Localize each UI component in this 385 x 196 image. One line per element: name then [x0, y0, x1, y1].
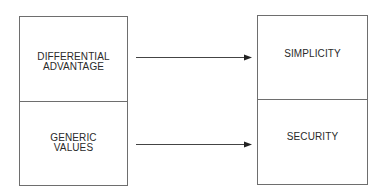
left-column-divider	[20, 101, 127, 102]
right-arrow-icon	[136, 141, 252, 148]
simplicity-label: SIMPLICITY	[258, 49, 367, 59]
generic-values-label: GENERIC VALUES	[20, 133, 127, 153]
arrow-differential-to-simplicity	[136, 54, 252, 61]
right-column-divider	[258, 99, 367, 100]
right-arrow-icon	[136, 54, 252, 61]
differential-advantage-label: DIFFERENTIAL ADVANTAGE	[20, 52, 127, 72]
simplicity-line-1: SIMPLICITY	[258, 49, 367, 59]
right-column-box: SIMPLICITY SECURITY	[257, 15, 368, 185]
security-line-1: SECURITY	[258, 132, 367, 142]
differential-advantage-line-2: ADVANTAGE	[20, 62, 127, 72]
generic-values-line-2: VALUES	[20, 143, 127, 153]
left-column-box: DIFFERENTIAL ADVANTAGE GENERIC VALUES	[19, 16, 128, 186]
arrow-generic-to-security	[136, 141, 252, 148]
security-label: SECURITY	[258, 132, 367, 142]
